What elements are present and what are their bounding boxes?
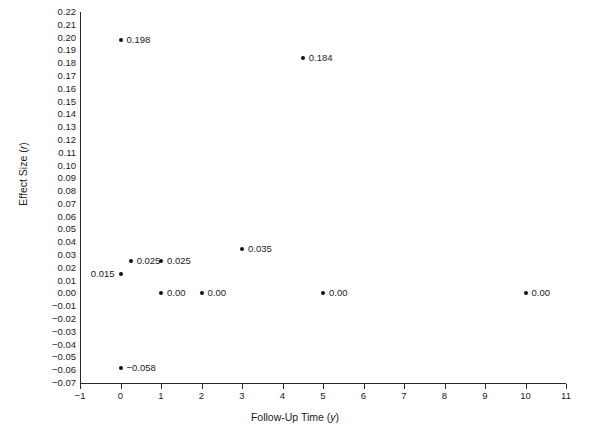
data-point-label: 0.015: [91, 270, 115, 280]
y-axis-title-text: Effect Size (: [17, 149, 29, 205]
data-point: [524, 291, 528, 295]
data-point-label: 0.035: [248, 244, 272, 254]
scatter-plot-figure: 0.220.210.200.190.180.170.160.150.140.13…: [0, 0, 590, 441]
data-point: [119, 366, 123, 370]
x-axis-title-text: Follow-Up Time (: [251, 411, 330, 423]
data-point: [301, 56, 305, 60]
data-point-label: 0.00: [329, 289, 348, 299]
data-point: [240, 247, 244, 251]
data-point-label: 0.00: [532, 289, 551, 299]
y-axis-title-variable: r: [17, 146, 29, 150]
x-axis-title-close: ): [336, 411, 340, 423]
x-axis-title: Follow-Up Time (y): [0, 411, 590, 423]
data-point-label: 0.025: [137, 257, 161, 267]
data-point: [321, 291, 325, 295]
data-point-label: 0.198: [127, 35, 151, 45]
data-point-label: 0.00: [167, 289, 186, 299]
data-point: [119, 38, 123, 42]
y-axis-title-close: ): [17, 142, 29, 146]
data-point: [119, 272, 123, 276]
data-point-label: −0.058: [127, 363, 156, 373]
data-point: [159, 291, 163, 295]
data-point: [129, 259, 133, 263]
data-point: [159, 259, 163, 263]
data-point-label: 0.184: [309, 53, 333, 63]
data-point-label: 0.00: [208, 289, 227, 299]
data-point: [200, 291, 204, 295]
data-point-label: 0.025: [167, 257, 191, 267]
y-axis-title: Effect Size (r): [17, 104, 29, 244]
data-point-layer: 0.1980.1840.0350.0250.0250.0150.000.000.…: [0, 0, 590, 441]
